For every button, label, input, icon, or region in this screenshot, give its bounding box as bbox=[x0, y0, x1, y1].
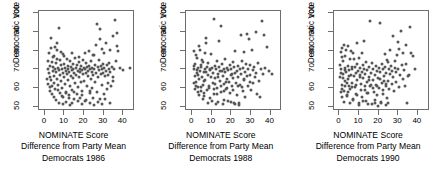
scatter-point bbox=[217, 40, 220, 43]
x-axis-subtitle: Difference from Party Mean bbox=[0, 141, 147, 152]
scatter-point bbox=[403, 69, 406, 72]
scatter-point bbox=[376, 105, 379, 108]
scatter-point bbox=[72, 76, 75, 79]
scatter-point bbox=[67, 96, 70, 99]
x-tick-mark bbox=[63, 110, 64, 115]
scatter-point bbox=[361, 99, 364, 102]
scatter-point bbox=[220, 25, 223, 28]
scatter-point bbox=[205, 71, 208, 74]
scatter-point bbox=[200, 76, 203, 79]
scatter-point bbox=[92, 96, 95, 99]
x-tick-mark bbox=[378, 110, 379, 115]
scatter-point bbox=[103, 93, 106, 96]
scatter-point bbox=[47, 82, 50, 85]
scatter-point bbox=[355, 62, 358, 65]
scatter-point bbox=[265, 45, 268, 48]
x-tick-label: 10 bbox=[54, 116, 72, 125]
scatter-point bbox=[366, 103, 369, 106]
scatter-point bbox=[215, 87, 218, 90]
scatter-point bbox=[195, 54, 198, 57]
scatter-point bbox=[404, 43, 407, 46]
scatter-point bbox=[378, 22, 381, 25]
scatter-point bbox=[48, 90, 51, 93]
scatter-point bbox=[69, 104, 72, 107]
scatter-point bbox=[114, 19, 117, 22]
scatter-point bbox=[98, 27, 101, 30]
panel-caption: NOMINATE Score Difference from Party Mea… bbox=[0, 130, 147, 164]
scatter-point bbox=[362, 40, 365, 43]
scatter-point bbox=[57, 26, 60, 29]
scatter-point bbox=[114, 60, 117, 63]
scatter-point bbox=[195, 69, 198, 72]
scatter-point bbox=[100, 103, 103, 106]
x-tick-label: 0 bbox=[35, 116, 53, 125]
scatter-point bbox=[253, 76, 256, 79]
scatter-point bbox=[363, 85, 366, 88]
x-tick-mark bbox=[44, 110, 45, 115]
y-tick-label: 90 bbox=[159, 21, 168, 39]
scatter-point bbox=[251, 69, 254, 72]
scatter-point bbox=[378, 77, 381, 80]
scatter-point bbox=[77, 76, 80, 79]
scatter-point bbox=[397, 41, 400, 44]
scatter-point bbox=[215, 93, 218, 96]
scatter-point bbox=[385, 96, 388, 99]
x-tick-label: 10 bbox=[202, 116, 220, 125]
scatter-point bbox=[104, 42, 107, 45]
scatter-point bbox=[348, 75, 351, 78]
scatter-point bbox=[198, 48, 201, 51]
panel-caption: NOMINATE Score Difference from Party Mea… bbox=[147, 130, 294, 164]
scatter-point bbox=[96, 100, 99, 103]
scatter-point bbox=[57, 83, 60, 86]
scatter-point bbox=[207, 87, 210, 90]
scatter-point bbox=[232, 89, 235, 92]
x-axis-subtitle: Difference from Party Mean bbox=[147, 141, 294, 152]
scatter-point bbox=[73, 91, 76, 94]
scatter-point bbox=[53, 81, 56, 84]
scatter-point bbox=[56, 77, 59, 80]
scatter-point bbox=[95, 91, 98, 94]
scatter-point bbox=[243, 71, 246, 74]
scatter-point bbox=[84, 51, 87, 54]
scatter-point bbox=[73, 57, 76, 60]
scatter-point bbox=[219, 91, 222, 94]
scatter-point bbox=[387, 67, 390, 70]
scatter-point bbox=[343, 100, 346, 103]
scatter-point bbox=[365, 60, 368, 63]
scatter-point bbox=[340, 72, 343, 75]
scatter-point bbox=[101, 62, 104, 65]
scatter-point bbox=[247, 38, 250, 41]
scatter-point bbox=[243, 77, 246, 80]
scatter-point bbox=[240, 60, 243, 63]
scatter-point bbox=[359, 74, 362, 77]
scatter-point bbox=[221, 75, 224, 78]
scatter-point bbox=[239, 33, 242, 36]
panel-democrats-1990: Democratic Vote 5060708090100 010203040 … bbox=[295, 0, 442, 181]
y-tick-label: 100 bbox=[159, 2, 168, 20]
x-tick-label: 40 bbox=[408, 116, 426, 125]
scatter-point bbox=[402, 51, 405, 54]
scatter-point bbox=[81, 59, 84, 62]
scatter-point bbox=[360, 82, 363, 85]
scatter-point bbox=[197, 74, 200, 77]
scatter-point bbox=[216, 76, 219, 79]
x-tick-mark bbox=[270, 110, 271, 115]
scatter-point bbox=[95, 43, 98, 46]
scatter-point bbox=[81, 90, 84, 93]
scatter-point bbox=[198, 44, 201, 47]
scatter-point bbox=[379, 100, 382, 103]
scatter-point bbox=[240, 73, 243, 76]
scatter-point bbox=[347, 77, 350, 80]
scatter-point bbox=[254, 30, 257, 33]
scatter-point bbox=[85, 85, 88, 88]
scatter-point bbox=[220, 70, 223, 73]
scatter-point bbox=[341, 76, 344, 79]
plot-frame bbox=[333, 10, 429, 110]
scatter-point bbox=[364, 99, 367, 102]
scatter-point bbox=[203, 52, 206, 55]
scatter-point bbox=[101, 83, 104, 86]
scatter-point bbox=[67, 78, 70, 81]
scatter-point bbox=[346, 91, 349, 94]
scatter-point bbox=[392, 76, 395, 79]
scatter-point bbox=[209, 53, 212, 56]
